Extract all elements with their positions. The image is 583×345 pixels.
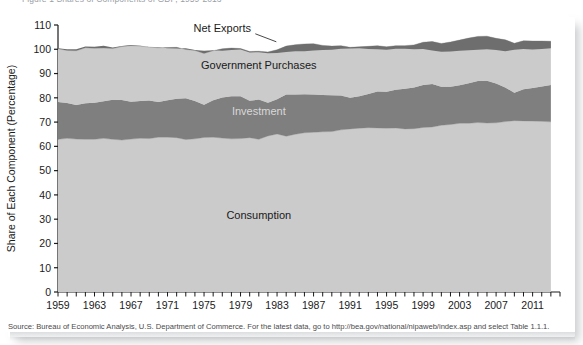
source-note: Source: Bureau of Economic Analysis, U.S… xyxy=(8,322,568,331)
x-tick-label: 1975 xyxy=(192,299,216,311)
y-tick-label: 100 xyxy=(33,43,51,55)
investment-label: Investment xyxy=(232,105,286,117)
x-tick-label: 1959 xyxy=(46,299,70,311)
x-tick-label: 1991 xyxy=(338,299,362,311)
stacked-areas xyxy=(58,36,551,292)
y-axis-title: Share of Each Component (Percentage) xyxy=(5,65,17,252)
x-tick-label: 1963 xyxy=(83,299,107,311)
y-tick-label: 90 xyxy=(39,67,51,79)
x-tick-label: 1987 xyxy=(302,299,326,311)
area-chart: 0102030405060708090100110Share of Each C… xyxy=(0,0,583,345)
y-tick-label: 0 xyxy=(45,286,51,298)
y-tick-label: 10 xyxy=(39,262,51,274)
x-tick-label: 1995 xyxy=(375,299,399,311)
x-tick-label: 1983 xyxy=(265,299,289,311)
figure-container: Figure 1 Shares of Components of GDP, 19… xyxy=(0,0,583,345)
x-tick-label: 1967 xyxy=(119,299,143,311)
government-purchases-label: Government Purchases xyxy=(201,59,317,71)
net-exports-label: Net Exports xyxy=(194,22,252,34)
y-axis: 0102030405060708090100110Share of Each C… xyxy=(5,19,58,298)
consumption-label: Consumption xyxy=(226,209,291,221)
y-tick-label: 30 xyxy=(39,213,51,225)
x-axis: 1959196319671971197519791983198719911995… xyxy=(46,292,560,311)
y-tick-label: 80 xyxy=(39,92,51,104)
x-tick-label: 2007 xyxy=(484,299,508,311)
y-tick-label: 110 xyxy=(34,19,51,31)
net-exports-leader-line xyxy=(255,34,276,42)
x-tick-label: 2003 xyxy=(448,299,472,311)
plot-wrapper: 0102030405060708090100110Share of Each C… xyxy=(0,0,583,345)
x-tick-label: 1999 xyxy=(411,299,435,311)
x-tick-label: 1979 xyxy=(229,299,253,311)
y-tick-label: 20 xyxy=(39,237,51,249)
y-tick-label: 50 xyxy=(39,164,51,176)
y-tick-label: 60 xyxy=(39,140,51,152)
x-tick-label: 2011 xyxy=(521,299,544,311)
x-tick-label: 1971 xyxy=(156,299,180,311)
y-tick-label: 70 xyxy=(39,116,51,128)
y-tick-label: 40 xyxy=(39,189,51,201)
area-band-consumption xyxy=(58,121,551,292)
